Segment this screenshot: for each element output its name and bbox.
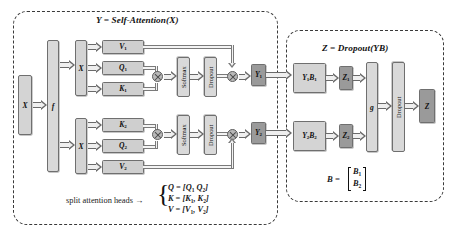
arrow-dropout-final-to-z [405,103,420,109]
arrow-mm1-to-softmax1 [164,74,178,80]
pipe-v2-skip-v [231,143,234,168]
arrow-x1-to-k1 [88,86,103,92]
node-y1-label: Y1 [255,70,262,79]
node-dropout-head1-label: Dropout [207,66,214,87]
arrow-x2-to-v2 [88,164,103,170]
node-k2: K2 [102,118,144,132]
arrow-mm2-to-softmax2 [164,132,178,138]
split-heads-label: split attention heads → [66,196,143,205]
arrow-y1-to-y1b1 [266,72,293,78]
arrow-z2-to-g [353,133,367,139]
op-attnmul-head1 [227,71,238,82]
node-g: g [366,62,378,152]
node-input-x: X [18,75,32,135]
node-input-x-label: X [22,101,27,110]
node-x-head2-label: X [78,142,83,151]
node-v2-label: V2 [119,162,127,171]
node-z1-label: Z1 [342,73,349,82]
node-dropout-final: Dropout [392,62,405,152]
node-g-label: g [370,103,374,112]
node-k1-label: K1 [119,84,127,93]
arrow-y2b2-to-z2 [326,133,340,139]
node-y1: Y1 [251,64,266,86]
arrow-f-to-x1 [60,62,76,68]
node-softmax-head2-label: Softmax [180,124,187,146]
node-softmax-head1: Softmax [177,57,190,97]
bracket-right [363,167,366,191]
node-z2-label: Z2 [342,131,349,140]
b-definition-lhs: B = [327,174,340,184]
op-matmul-head1 [152,71,163,82]
node-z-out: Z [419,89,435,123]
arrow-x1-to-v1 [88,44,103,50]
group-self-attention-title: Y = Self-Attention(X) [96,15,179,25]
node-f: f [47,40,59,172]
node-y2b2: Y2B2 [293,121,326,151]
node-v1-label: V1 [119,42,127,51]
node-x-head1: X [75,40,87,96]
node-k2-label: K2 [119,120,127,129]
node-z2: Z2 [339,124,353,148]
node-z1: Z1 [339,66,353,90]
pipe-k1-up [155,83,158,90]
arrow-z1-to-g [353,75,367,81]
node-x-head1-label: X [78,64,83,73]
node-y1b1: Y1B1 [293,63,326,93]
node-f-label: f [52,102,55,111]
arrow-f-to-x2 [60,142,76,148]
arrow-x1-to-q1 [88,65,103,71]
node-dropout-head2: Dropout [204,115,217,155]
b-definition-matrix: B1 B2 [348,167,366,191]
node-q2: Q2 [102,139,144,153]
b-definition-row-2: B2 [353,179,361,191]
node-q1: Q1 [102,61,144,75]
b-definition-row-1: B1 [353,167,361,179]
pipe-v1-skip-v [231,45,234,63]
arrow-y2-to-y2b2 [266,130,293,136]
node-v2: V2 [102,160,144,174]
node-softmax-head1-label: Softmax [180,66,187,88]
node-q2-label: Q2 [119,141,127,150]
node-y1b1-label: Y1B1 [302,73,317,82]
node-y2: Y2 [251,122,266,144]
node-x-head2: X [75,118,87,174]
arrow-softmax2-to-dropout2 [190,132,205,138]
arrowhead-v1-into-mul [228,63,236,68]
pipe-v1-skip-h [143,45,234,48]
arrow-y1b1-to-z1 [326,75,340,81]
node-y2b2-label: Y2B2 [302,131,317,140]
node-dropout-head1: Dropout [204,57,217,97]
node-k1: K1 [102,82,144,96]
arrowhead-v2-into-mul [228,138,236,143]
arrow-x2-to-k2 [88,122,103,128]
split-heads-eq-v: V = [V1, V2] [168,205,208,217]
arrow-softmax1-to-dropout1 [190,74,205,80]
pipe-q2-up [155,141,158,148]
node-y2-label: Y2 [255,128,262,137]
arrow-g-to-dropout-final [378,103,393,109]
node-dropout-final-label: Dropout [395,96,402,117]
op-matmul-head2 [152,129,163,140]
arrow-x-to-f [33,102,48,108]
attention-diagram: Y = Self-Attention(X) Z = Dropout(YB) X … [0,0,453,234]
node-dropout-head2-label: Dropout [207,124,214,145]
pipe-v2-skip-h [143,165,234,168]
node-softmax-head2: Softmax [177,115,190,155]
node-q1-label: Q1 [119,63,127,72]
node-z-out-label: Z [425,102,430,111]
group-dropout-title: Z = Dropout(YB) [322,43,388,53]
arrow-x2-to-q2 [88,143,103,149]
node-v1: V1 [102,40,144,54]
